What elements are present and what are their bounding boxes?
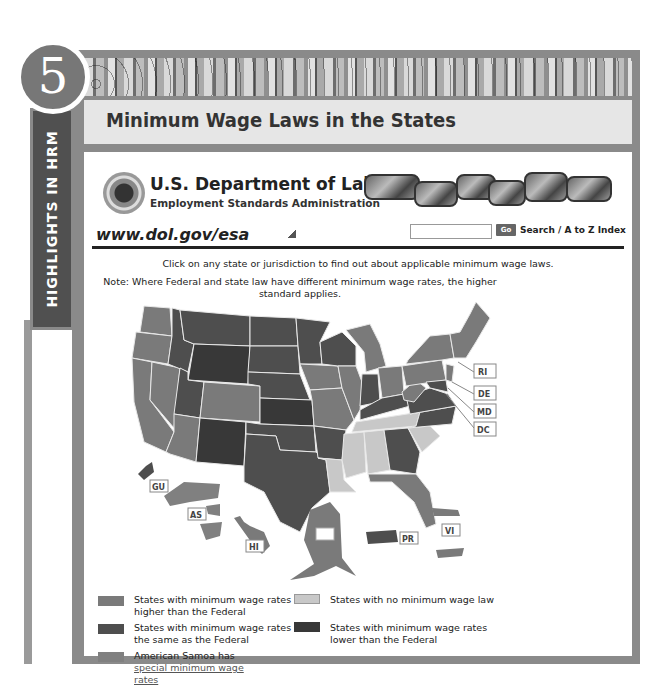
state-ar[interactable] <box>314 426 346 460</box>
territory-gu[interactable] <box>138 462 154 480</box>
svg-text:DC: DC <box>477 426 490 435</box>
label-vi[interactable]: VI <box>442 524 460 536</box>
search-input[interactable] <box>410 224 492 239</box>
us-minimum-wage-map[interactable]: RI DE MD DC GU AS HI AK PR VI <box>130 302 520 588</box>
chapter-badge: 5 <box>16 40 90 114</box>
dol-seal-icon[interactable] <box>103 172 145 214</box>
sidebar-strip <box>24 320 32 664</box>
page-title: Minimum Wage Laws in the States <box>106 108 456 132</box>
header-rule <box>92 246 624 249</box>
state-wa[interactable] <box>140 306 172 336</box>
legend-higher: States with minimum wage rates higher th… <box>134 594 294 618</box>
photo-2 <box>414 181 458 207</box>
territory-as[interactable] <box>164 482 220 506</box>
svg-text:DE: DE <box>478 390 490 399</box>
corner-decoration-icon <box>288 230 296 238</box>
label-dc[interactable]: DC <box>474 422 496 436</box>
label-de[interactable]: DE <box>474 386 496 400</box>
state-oh[interactable] <box>378 366 404 398</box>
state-sd[interactable] <box>248 346 300 374</box>
note-text: Note: Where Federal and state law have d… <box>90 276 510 300</box>
svg-text:HI: HI <box>249 543 259 552</box>
legend-special: American Samoa has special minimum wage … <box>134 650 264 686</box>
svg-text:VI: VI <box>445 527 454 536</box>
special-rates-link[interactable]: special minimum wage rates <box>134 662 244 685</box>
chapter-number: 5 <box>21 49 85 103</box>
legend-lower: States with minimum wage rates lower tha… <box>330 622 500 646</box>
photo-4 <box>488 180 526 206</box>
screenshot-content: U.S. Department of Labor Employment Stan… <box>84 152 632 656</box>
state-co[interactable] <box>200 382 260 422</box>
legend-none: States with no minimum wage law <box>330 594 530 606</box>
photo-1 <box>364 174 420 200</box>
instruction-text: Click on any state or jurisdiction to fi… <box>84 258 632 269</box>
legend-swatch-special <box>98 652 124 662</box>
label-md[interactable]: MD <box>474 404 496 418</box>
sidebar-tab: HIGHLIGHTS IN HRM <box>30 108 74 330</box>
go-button[interactable]: Go <box>496 224 516 236</box>
territory-vi-2[interactable] <box>436 548 464 558</box>
svg-text:AS: AS <box>190 511 202 520</box>
photo-5 <box>524 172 568 202</box>
territory-as-3[interactable] <box>200 522 222 540</box>
state-ia[interactable] <box>300 364 342 390</box>
state-mt[interactable] <box>180 310 250 346</box>
state-wi[interactable] <box>320 332 356 366</box>
title-bar: Minimum Wage Laws in the States <box>84 100 632 144</box>
dol-name[interactable]: U.S. Department of Labor <box>150 174 396 194</box>
label-ak[interactable]: AK <box>316 528 334 540</box>
site-url[interactable]: www.dol.gov/esa <box>96 225 249 244</box>
territory-as-2[interactable] <box>206 504 220 516</box>
territory-pr[interactable] <box>366 530 398 544</box>
photo-strip <box>364 172 614 208</box>
label-ri[interactable]: RI <box>474 364 496 378</box>
legend-special-prefix: American Samoa has <box>134 650 235 661</box>
territory-vi[interactable] <box>432 508 460 516</box>
state-ks[interactable] <box>260 398 314 426</box>
state-wy[interactable] <box>188 344 250 384</box>
state-ms[interactable] <box>342 432 366 478</box>
state-nj[interactable] <box>446 364 454 382</box>
svg-text:AK: AK <box>318 531 331 540</box>
legend-swatch-lower <box>294 622 320 632</box>
svg-text:PR: PR <box>402 535 414 544</box>
legend-swatch-same <box>98 624 124 634</box>
svg-text:RI: RI <box>478 368 487 377</box>
state-nd[interactable] <box>250 316 298 346</box>
banner-illustration <box>84 58 632 96</box>
svg-text:MD: MD <box>477 408 492 417</box>
search-az-index-link[interactable]: Search / A to Z Index <box>520 225 626 235</box>
agency-name[interactable]: Employment Standards Administration <box>150 197 380 209</box>
legend-swatch-higher <box>98 596 124 606</box>
legend-same: States with minimum wage rates the same … <box>134 622 302 646</box>
sidebar-label: HIGHLIGHTS IN HRM <box>44 130 60 307</box>
label-gu[interactable]: GU <box>150 480 168 492</box>
legend-swatch-none <box>294 594 320 604</box>
state-new-england[interactable] <box>450 302 490 358</box>
label-as[interactable]: AS <box>188 508 206 520</box>
state-nm[interactable] <box>196 418 246 466</box>
label-pr[interactable]: PR <box>400 532 418 544</box>
state-fl[interactable] <box>368 474 436 528</box>
photo-6 <box>566 176 612 202</box>
state-ny[interactable] <box>406 334 454 364</box>
label-hi[interactable]: HI <box>246 540 264 552</box>
svg-text:GU: GU <box>152 483 165 492</box>
